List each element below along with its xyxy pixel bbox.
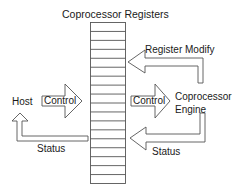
engine-status-arrow: [130, 113, 205, 150]
host-label: Host: [12, 96, 33, 107]
host-status-arrow: [12, 113, 88, 141]
engine-status-label: Status: [152, 146, 180, 157]
register-modify-label: Register Modify: [145, 44, 214, 55]
host-status-label: Status: [37, 143, 65, 154]
engine-label-line2: Engine: [175, 104, 206, 115]
engine-label-line1: Coprocessor: [175, 91, 232, 102]
registers-title: Coprocessor Registers: [62, 9, 169, 20]
engine-control-label: Control: [133, 95, 165, 106]
host-control-label: Control: [44, 95, 76, 106]
register-stack: [91, 23, 126, 184]
